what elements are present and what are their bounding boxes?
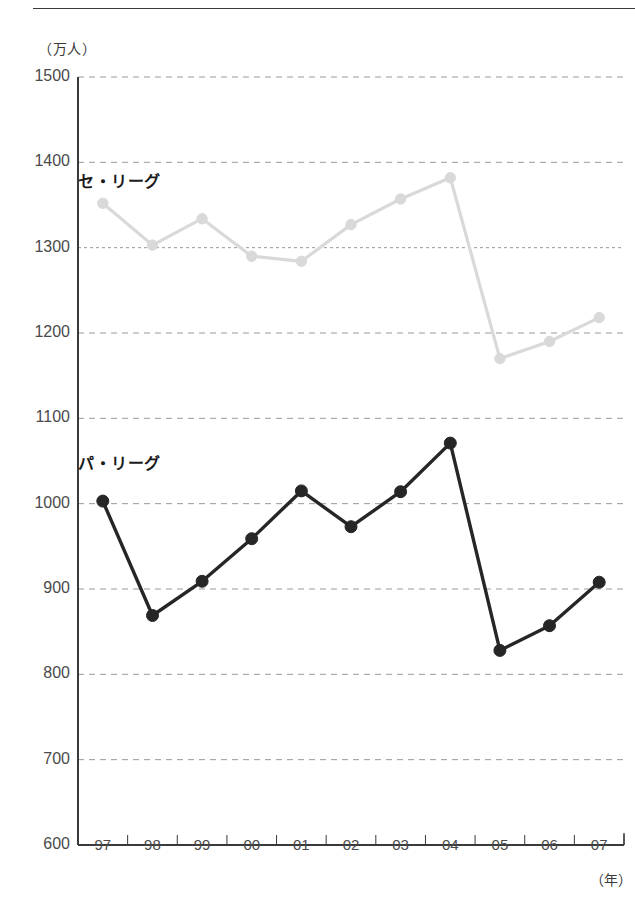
data-point xyxy=(197,214,207,224)
data-point xyxy=(395,486,407,498)
x-axis-tick-label: 01 xyxy=(281,836,321,853)
data-point xyxy=(295,485,307,497)
data-point xyxy=(395,194,405,204)
gridlines xyxy=(78,77,624,760)
data-point xyxy=(97,495,109,507)
y-axis-tick-label: 1100 xyxy=(18,409,70,425)
data-point xyxy=(147,240,157,250)
data-point xyxy=(593,576,605,588)
data-point xyxy=(346,219,356,229)
series-line-central xyxy=(98,173,605,364)
data-point xyxy=(544,620,556,632)
x-axis-tick-label: 99 xyxy=(182,836,222,853)
data-point xyxy=(494,644,506,656)
x-axis-tick-label: 06 xyxy=(530,836,570,853)
data-point xyxy=(495,353,505,363)
y-axis-tick-label: 600 xyxy=(18,836,70,852)
x-axis-tick-label: 04 xyxy=(430,836,470,853)
data-point xyxy=(98,198,108,208)
y-axis-tick-label: 1400 xyxy=(18,153,70,169)
data-point xyxy=(544,336,554,346)
data-point xyxy=(345,521,357,533)
chart-page: （万人） （年） セ・リーグ パ・リーグ 6007008009001000110… xyxy=(0,0,635,922)
y-axis-tick-label: 700 xyxy=(18,751,70,767)
data-point xyxy=(296,256,306,266)
y-axis-tick-label: 900 xyxy=(18,580,70,596)
x-axis-tick-label: 98 xyxy=(132,836,172,853)
x-axis-tick-label: 00 xyxy=(232,836,272,853)
axis-lines xyxy=(78,77,624,845)
data-point xyxy=(246,533,258,545)
x-axis-tick-label: 97 xyxy=(83,836,123,853)
data-point xyxy=(196,575,208,587)
data-point xyxy=(444,437,456,449)
y-axis-tick-label: 800 xyxy=(18,665,70,681)
y-axis-tick-label: 1200 xyxy=(18,324,70,340)
series-line-pacific xyxy=(97,437,605,656)
x-axis-tick-label: 07 xyxy=(579,836,619,853)
data-point xyxy=(445,173,455,183)
y-axis-tick-label: 1500 xyxy=(18,68,70,84)
x-axis-tick-label: 05 xyxy=(480,836,520,853)
line-chart-plot xyxy=(0,0,635,922)
x-axis-tick-label: 03 xyxy=(381,836,421,853)
data-point xyxy=(247,251,257,261)
data-point xyxy=(594,312,604,322)
y-axis-tick-label: 1000 xyxy=(18,495,70,511)
x-axis-tick-label: 02 xyxy=(331,836,371,853)
y-axis-tick-label: 1300 xyxy=(18,239,70,255)
data-point xyxy=(147,610,159,622)
